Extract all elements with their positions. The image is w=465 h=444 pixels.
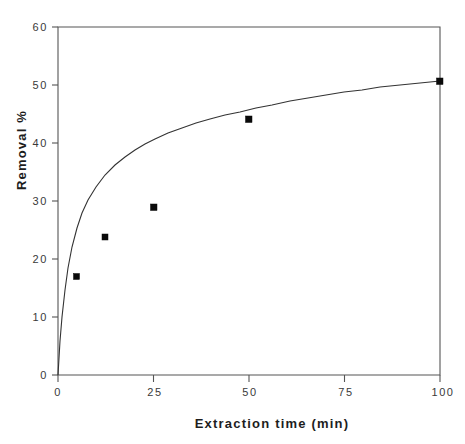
- y-tick-label-30: 30: [33, 195, 48, 207]
- data-point: [151, 204, 158, 211]
- y-tick-label-60: 60: [33, 21, 48, 33]
- x-tick-label-75: 75: [338, 386, 353, 398]
- fit-curve: [58, 81, 440, 375]
- x-axis-title: Extraction time (min): [195, 416, 350, 431]
- x-tick-label-0: 0: [54, 386, 62, 398]
- data-points: [74, 78, 444, 280]
- x-axis-ticks: [58, 375, 440, 382]
- chart-figure: 60 50 40 30 20 10 0 0 25 50 75 100 Extra…: [0, 0, 465, 444]
- y-axis-tick-labels: 60 50 40 30 20 10 0: [33, 21, 48, 381]
- data-point: [246, 116, 253, 123]
- x-tick-label-100: 100: [431, 386, 454, 398]
- plot-frame: [58, 27, 440, 375]
- y-axis-ticks: [52, 27, 58, 375]
- data-point: [102, 234, 108, 240]
- scatter-plot-svg: 60 50 40 30 20 10 0 0 25 50 75 100 Extra…: [0, 0, 465, 444]
- y-tick-label-40: 40: [33, 137, 48, 149]
- x-tick-label-25: 25: [147, 386, 162, 398]
- x-axis-tick-labels: 0 25 50 75 100: [54, 386, 454, 398]
- y-tick-label-10: 10: [33, 311, 48, 323]
- y-tick-label-0: 0: [40, 369, 48, 381]
- y-tick-label-50: 50: [33, 79, 48, 91]
- x-tick-label-50: 50: [242, 386, 257, 398]
- y-axis-title: Removal %: [14, 110, 29, 190]
- y-tick-label-20: 20: [33, 253, 48, 265]
- data-point: [437, 78, 444, 85]
- data-point: [74, 274, 80, 280]
